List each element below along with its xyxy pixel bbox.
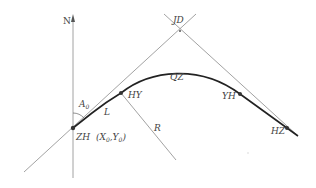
azimuth-arc (73, 113, 84, 118)
tangent-line-2 (164, 14, 298, 136)
label-hz: HZ (270, 126, 286, 136)
speck (247, 152, 248, 153)
label-zh: ZH (X0,Y0) (75, 132, 126, 143)
point-yh (238, 92, 242, 96)
north-arrow-icon (71, 14, 75, 22)
label-l: L (103, 107, 110, 117)
label-qz: QZ (170, 72, 184, 82)
curve-diagram: N JD QZ HY YH HZ L R A0 ZH (X0,Y0) (0, 0, 316, 188)
label-azimuth: A0 (78, 99, 90, 110)
label-r: R (153, 123, 161, 133)
label-yh: YH (222, 91, 236, 101)
point-jd (179, 30, 181, 32)
label-jd: JD (171, 15, 184, 25)
label-hy: HY (127, 90, 143, 100)
point-hy (119, 91, 123, 95)
north-label: N (63, 16, 71, 26)
tangent-line-1 (24, 14, 196, 172)
point-zh (71, 126, 75, 130)
point-hz (285, 126, 289, 130)
radius-line (121, 93, 176, 160)
